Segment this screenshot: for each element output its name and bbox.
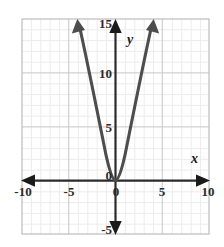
x-tick-label-5: 5 [159,184,166,199]
y-tick-label-0: 0 [106,168,113,183]
x-axis-label: x [190,151,198,166]
coordinate-plane-svg: 15 10 5 0 -5 -10 -5 0 5 10 y x [0,0,224,247]
x-tick-label-0: 0 [113,184,120,199]
y-tick-label-neg5: -5 [101,222,112,237]
y-tick-label-5: 5 [106,120,113,135]
x-tick-label-neg10: -10 [14,184,31,199]
y-axis-label: y [125,32,134,47]
y-tick-label-15: 15 [99,16,113,31]
x-tick-label-10: 10 [202,184,215,199]
x-tick-label-neg5: -5 [64,184,75,199]
y-tick-label-10: 10 [99,66,112,81]
canvas-background [0,0,224,247]
parabola-graph: 15 10 5 0 -5 -10 -5 0 5 10 y x [0,0,224,247]
